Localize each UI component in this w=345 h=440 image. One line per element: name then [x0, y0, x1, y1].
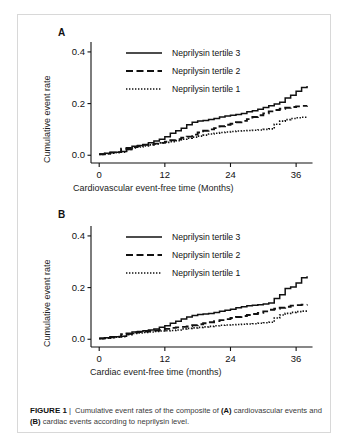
panel-a-plot: 0.00.20.40122436Neprilysin tertile 3Nepr…: [18, 15, 332, 201]
legend-label: Neprilysin tertile 1: [172, 268, 241, 278]
xtick-label: 12: [160, 353, 171, 364]
xtick-label: 24: [225, 353, 236, 364]
curve-dashed: [99, 304, 307, 338]
panel-b-xlabel: Cardiac event-free time (months): [90, 367, 222, 377]
caption-text-1: Cumulative event rates of the composite …: [73, 406, 221, 415]
caption-text-2: cardiovascular events and: [232, 406, 322, 415]
xtick-label: 24: [225, 169, 236, 180]
xtick-label: 0: [97, 169, 102, 180]
ytick-label: 0.2: [72, 282, 85, 293]
xtick-label: 36: [291, 353, 302, 364]
legend-label: Neprilysin tertile 1: [172, 84, 241, 94]
panel-b: B 0.00.20.40122436Neprilysin tertile 3Ne…: [18, 201, 330, 387]
legend-label: Neprilysin tertile 2: [172, 250, 241, 260]
caption-bold-b: (B): [30, 417, 41, 426]
panel-b-plot: 0.00.20.40122436Neprilysin tertile 3Nepr…: [18, 201, 332, 387]
curve-solid: [99, 276, 307, 338]
ytick-label: 0.0: [72, 333, 85, 344]
legend-label: Neprilysin tertile 3: [172, 232, 241, 242]
caption-text-3: cardiac events according to neprilysin l…: [41, 417, 190, 426]
xtick-label: 0: [97, 353, 102, 364]
panel-a: A 0.00.20.40122436Neprilysin tertile 3Ne…: [18, 15, 330, 201]
caption-figure-label: FIGURE 1: [30, 406, 67, 415]
curve-dashed: [99, 106, 307, 155]
ytick-label: 0.0: [72, 149, 85, 160]
ytick-label: 0.2: [72, 98, 85, 109]
caption-bold-a: (A): [221, 406, 232, 415]
legend-label: Neprilysin tertile 3: [172, 48, 241, 58]
panel-a-ylabel: Cumulative event rate: [42, 75, 52, 163]
xtick-label: 12: [160, 169, 171, 180]
xtick-label: 36: [291, 169, 302, 180]
curve-solid: [99, 86, 307, 154]
figure-caption: FIGURE 1| Cumulative event rates of the …: [30, 405, 322, 427]
panel-a-xlabel: Cardiovascular event-free time (Months): [73, 183, 234, 193]
curve-dotted: [99, 117, 307, 154]
ytick-label: 0.4: [72, 46, 85, 57]
legend-label: Neprilysin tertile 2: [172, 66, 241, 76]
ytick-label: 0.4: [72, 230, 85, 241]
figure-card: A 0.00.20.40122436Neprilysin tertile 3Ne…: [17, 14, 331, 433]
panel-b-ylabel: Cumulative event rate: [42, 259, 52, 347]
